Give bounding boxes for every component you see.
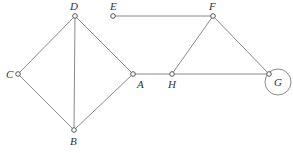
graph-diagram: ABCDEFGH (0, 0, 293, 153)
edge-d-a (75, 16, 133, 74)
node-c (16, 72, 21, 77)
node-f (211, 14, 216, 19)
node-b (72, 128, 77, 133)
node-label-c: C (6, 68, 14, 80)
edge-d-b (74, 16, 75, 130)
node-label-h: H (167, 78, 177, 90)
node-label-d: D (69, 0, 78, 12)
edges-group (18, 16, 269, 130)
node-h (170, 72, 175, 77)
edge-h-f (172, 16, 213, 74)
node-g (267, 72, 272, 77)
edge-d-c (18, 16, 75, 74)
node-label-e: E (109, 0, 117, 12)
edge-f-g (213, 16, 269, 74)
node-e (111, 14, 116, 19)
edge-c-b (18, 74, 74, 130)
edge-b-a (74, 74, 133, 130)
node-label-f: F (208, 0, 216, 12)
nodes-group (16, 14, 272, 133)
node-label-b: B (70, 135, 77, 147)
node-label-a: A (136, 78, 144, 90)
node-a (131, 72, 136, 77)
node-d (73, 14, 78, 19)
node-label-g: G (274, 76, 282, 88)
